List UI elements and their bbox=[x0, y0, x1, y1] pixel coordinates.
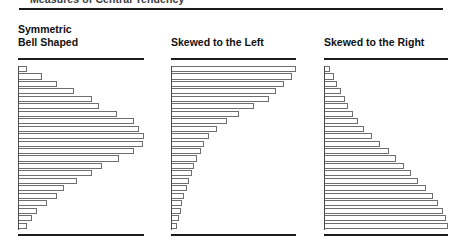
bar bbox=[325, 223, 448, 229]
chart-panel-skewed-to-the-right: Skewed to the Right bbox=[324, 22, 448, 244]
chart-panel-skewed-to-the-left: Skewed to the Left bbox=[171, 22, 296, 244]
bar bbox=[172, 118, 227, 124]
bar bbox=[325, 185, 426, 191]
bar-group bbox=[325, 66, 448, 230]
bar bbox=[325, 148, 389, 154]
plot-area-symmetric-bell-shaped bbox=[18, 66, 144, 230]
bar bbox=[172, 163, 194, 169]
chart-bottom-rule bbox=[18, 234, 144, 236]
bar bbox=[172, 88, 276, 94]
chart-title-skewed-to-the-right: Skewed to the Right bbox=[324, 36, 424, 49]
bar bbox=[172, 73, 292, 79]
bar-group bbox=[172, 66, 296, 230]
bar bbox=[19, 155, 119, 161]
bar bbox=[19, 163, 102, 169]
bar bbox=[325, 200, 438, 206]
plot-area-skewed-to-the-right bbox=[324, 66, 448, 230]
bar bbox=[325, 103, 348, 109]
bar bbox=[19, 141, 143, 147]
bar bbox=[19, 73, 42, 79]
top-divider-rule bbox=[19, 8, 443, 10]
bar bbox=[325, 215, 446, 221]
bar bbox=[325, 170, 411, 176]
bar bbox=[172, 215, 179, 221]
plot-area-skewed-to-the-left bbox=[171, 66, 296, 230]
bar bbox=[325, 126, 364, 132]
bar bbox=[325, 66, 330, 72]
bar bbox=[19, 103, 99, 109]
bar bbox=[19, 81, 57, 87]
bar bbox=[172, 148, 201, 154]
bar bbox=[19, 200, 47, 206]
bar bbox=[325, 118, 358, 124]
bar bbox=[325, 133, 372, 139]
bar bbox=[325, 73, 334, 79]
bar bbox=[172, 133, 209, 139]
bar bbox=[172, 141, 204, 147]
bar bbox=[19, 118, 134, 124]
bar bbox=[325, 96, 345, 102]
bar bbox=[325, 193, 433, 199]
chart-top-rule bbox=[18, 58, 144, 60]
bar bbox=[172, 185, 187, 191]
bar bbox=[19, 178, 77, 184]
chart-title-symmetric-bell-shaped: Symmetric Bell Shaped bbox=[18, 23, 78, 49]
bar bbox=[172, 111, 239, 117]
chart-title-skewed-to-the-left: Skewed to the Left bbox=[171, 36, 264, 49]
bar bbox=[19, 185, 64, 191]
bar bbox=[325, 111, 353, 117]
bar bbox=[172, 178, 189, 184]
bar bbox=[325, 163, 404, 169]
chart-bottom-rule bbox=[324, 234, 448, 236]
bar bbox=[19, 126, 139, 132]
bar bbox=[172, 223, 177, 229]
bar bbox=[172, 81, 284, 87]
bar bbox=[19, 96, 92, 102]
bar bbox=[19, 223, 27, 229]
bar bbox=[172, 96, 269, 102]
bar bbox=[19, 215, 32, 221]
bar bbox=[325, 81, 337, 87]
bar bbox=[19, 66, 27, 72]
bar-group bbox=[19, 66, 144, 230]
bar bbox=[325, 155, 396, 161]
bar bbox=[19, 148, 134, 154]
bar bbox=[172, 126, 217, 132]
chart-panel-symmetric-bell-shaped: Symmetric Bell Shaped bbox=[18, 22, 144, 244]
cutoff-heading-fragment: Measures of Central Tendency bbox=[30, 0, 270, 5]
bar bbox=[172, 200, 182, 206]
chart-bottom-rule bbox=[171, 234, 296, 236]
bar bbox=[19, 193, 57, 199]
bar bbox=[172, 193, 184, 199]
histogram-panels: Symmetric Bell Shaped Skewed to the Left… bbox=[0, 22, 462, 244]
bar bbox=[325, 208, 443, 214]
bar bbox=[172, 66, 296, 72]
bar bbox=[325, 141, 380, 147]
bar bbox=[172, 208, 181, 214]
bar bbox=[19, 111, 117, 117]
bar bbox=[19, 170, 92, 176]
bar bbox=[172, 103, 254, 109]
chart-top-rule bbox=[324, 58, 448, 60]
bar bbox=[19, 88, 74, 94]
bar bbox=[19, 133, 144, 139]
bar bbox=[19, 208, 37, 214]
bar bbox=[172, 170, 192, 176]
bar bbox=[325, 178, 418, 184]
bar bbox=[172, 155, 197, 161]
chart-top-rule bbox=[171, 58, 296, 60]
bar bbox=[325, 88, 341, 94]
